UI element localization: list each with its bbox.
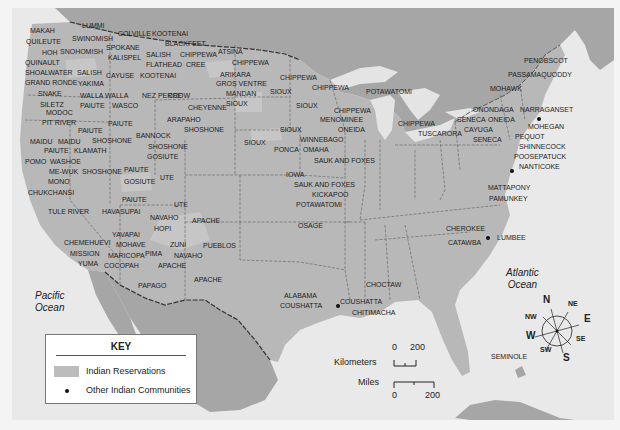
tribe-label: CHEROKEE [446,225,485,233]
key-item-communities: Other Indian Communities [86,385,191,395]
tribe-label: ARIKARA [220,71,251,79]
atlantic-ocean-label: Atlantic Ocean [506,267,539,291]
tribe-label: SHOSHONE [82,168,122,176]
tribe-label: COCOPAH [104,262,139,270]
tribe-label: CHUKCHANSI [28,189,74,197]
tribe-label: SALISH [146,51,171,59]
tribe-label: SNAKE [38,90,62,98]
tribe-label: APACHE [158,262,186,270]
tribe-label: YAVAPAI [112,231,140,239]
tribe-label: PASSAMAQUODDY [508,71,572,79]
tribe-label: MODOC [46,109,73,117]
compass-n: N [543,294,550,305]
tribe-label: SENECA [457,116,486,124]
tribe-label: MAIDU [58,138,81,146]
tribe-label: POMO [25,158,46,166]
atlantic-word: Atlantic [506,267,539,279]
tribe-label: UTE [174,201,188,209]
tribe-label: NANTICOKE [519,163,560,171]
tribe-label: ZUNI [170,241,186,249]
tribe-label: PEQUOT [515,133,545,141]
tribe-label: PONCA [274,146,299,154]
tribe-label: ONEIDA [488,116,515,124]
tribe-label: SALISH [77,69,102,77]
tribe-label: SIOUX [226,100,248,108]
tribe-label: MANDAN [226,90,256,98]
scale-bar-lines [330,340,490,430]
community-dot-icon [65,389,69,393]
tribe-label: CAYUSE [106,72,134,80]
tribe-label: SAUK AND FOXES [294,181,355,189]
tribe-label: KOOTENAI [140,72,176,80]
reservation-swatch-icon [54,366,79,377]
tribe-label: POTAWATOMI [296,201,342,209]
pacific-ocean-label: Pacific Ocean [35,290,64,314]
tribe-label: WINNEBAGO [300,136,343,144]
tribe-label: MAKAH [30,27,55,35]
tribe-label: FLATHEAD [146,61,182,69]
tribe-label: SIOUX [244,139,266,147]
tribe-label: MOHAVE [116,241,146,249]
tribe-label: PAPAGO [138,282,166,290]
compass-s: S [563,352,570,363]
tribe-label: GROS VENTRE [216,80,267,88]
tribe-label: CHIPPEWA [398,120,435,128]
community-dot-icon [486,236,490,240]
tribe-label: SIOUX [296,102,318,110]
tribe-label: SAUK AND FOXES [314,157,375,165]
tribe-label: CHEYENNE [188,104,227,112]
tribe-label: BANNOCK [136,132,171,140]
tribe-label: PAIUTE [44,147,69,155]
pacific-word: Pacific [35,290,64,302]
key-divider [56,355,186,356]
tribe-label: LUMMI [82,22,105,30]
tribe-label: QUINAULT [25,59,60,67]
tribe-label: PAIUTE [124,166,149,174]
tribe-label: NARRAGANSET [520,106,573,114]
tribe-label: CATAWBA [448,239,481,247]
tribe-label: CHIPPEWA [312,84,349,92]
tribe-label: CHOCTAW [366,281,401,289]
tribe-label: MONO [48,178,70,186]
tribe-label: CHIPPEWA [180,51,217,59]
tribe-label: ONONDAGA [473,106,514,114]
tribe-label: ARAPAHO [167,116,201,124]
tribe-label: MENOMINEE [320,116,363,124]
tribe-label: CHIPPEWA [280,74,317,82]
tribe-label: NAVAHO [150,214,178,222]
tribe-label: HOH [42,49,58,57]
tribe-label: SENECA [473,136,502,144]
tribe-label: YAKIMA [78,80,104,88]
tribe-label: PAIUTE [80,102,105,110]
tribe-label: CAYUGA [464,126,493,134]
tribe-label: MARICOPA [108,252,145,260]
tribe-label: COLVILLE [118,30,151,38]
key-title: KEY [46,341,196,352]
tribe-label: SHOALWATER [25,69,73,77]
tribe-label: HOPI [154,225,171,233]
tribe-label: SIOUX [270,88,292,96]
tribe-label: COUSHATTA [280,302,322,310]
compass-se: SE [576,335,585,342]
tribe-label: PUEBLOS [203,242,236,250]
ocean-word: Ocean [35,302,64,314]
tribe-label: IOWA [286,171,304,179]
tribe-label: MAIDU [30,138,53,146]
compass-sw: SW [540,346,551,353]
tribe-label: KOOTENAI [152,30,188,38]
community-dot-icon [510,169,514,173]
tribe-label: PAIUTE [108,120,133,128]
tribe-label: CROW [168,92,190,100]
tribe-label: PAIUTE [122,196,147,204]
tribe-label: LUMBEE [497,234,526,242]
indian-reservations-map: MAKAHLUMMIQUILEUTESWINOMISHCOLVILLEKOOTE… [0,0,620,430]
tribe-label: MISSION [70,250,100,258]
tribe-label: SHOSHONE [184,126,224,134]
tribe-label: PAIUTE [78,127,103,135]
compass-rose: N NE E SE S SW W NW [510,290,600,365]
tribe-label: ME-WUK [49,168,78,176]
tribe-label: KLAMATH [74,147,106,155]
tribe-label: PIMA [145,250,162,258]
tribe-label: ONEIDA [338,126,365,134]
tribe-label: PIT RIVER [42,119,76,127]
